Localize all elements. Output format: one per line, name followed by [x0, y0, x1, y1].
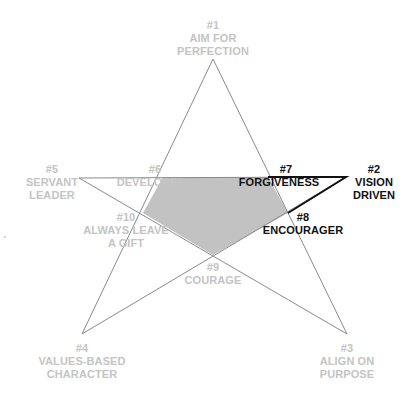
point-label-3: #3 ALIGN ON PURPOSE — [320, 342, 375, 381]
stray-mark — [4, 236, 6, 238]
point-text-3b: PURPOSE — [320, 368, 375, 381]
point-rank-4: #4 — [38, 342, 125, 355]
inner-label-10: #10 ALWAYS LEAVE A GIFT — [83, 211, 169, 250]
point-text-1b: PERFECTION — [177, 45, 249, 58]
point-text-2a: VISION — [353, 176, 395, 189]
inner-text-9: COURAGE — [185, 274, 242, 287]
inner-rank-10: #10 — [83, 211, 169, 224]
inner-label-8: #8 ENCOURAGER — [263, 211, 343, 237]
inner-rank-8: #8 — [263, 211, 343, 224]
point-rank-3: #3 — [320, 342, 375, 355]
point-text-5a: SERVANT — [26, 176, 78, 189]
point-label-5: #5 SERVANT LEADER — [26, 163, 78, 202]
inner-rank-6: #6 — [117, 163, 186, 176]
inner-text-6: DEVELOPER — [117, 176, 186, 189]
point-rank-1: #1 — [177, 19, 249, 32]
point-rank-5: #5 — [26, 163, 78, 176]
inner-label-6: #6 DEVELOPER — [117, 163, 186, 189]
point-label-4: #4 VALUES-BASED CHARACTER — [38, 342, 125, 381]
inner-text-10a: ALWAYS LEAVE — [83, 224, 169, 237]
inner-label-7: #7 FORGIVENESS — [239, 163, 320, 189]
inner-text-10b: A GIFT — [83, 237, 169, 250]
inner-text-8: ENCOURAGER — [263, 224, 343, 237]
point-text-2b: DRIVEN — [353, 189, 395, 202]
point-text-5b: LEADER — [26, 189, 78, 202]
point-label-2: #2 VISION DRIVEN — [353, 163, 395, 202]
point-rank-2: #2 — [353, 163, 395, 176]
point-text-1a: AIM FOR — [177, 32, 249, 45]
inner-text-7: FORGIVENESS — [239, 176, 320, 189]
point-text-3a: ALIGN ON — [320, 355, 375, 368]
inner-rank-7: #7 — [239, 163, 320, 176]
point-label-1: #1 AIM FOR PERFECTION — [177, 19, 249, 58]
point-text-4b: CHARACTER — [38, 368, 125, 381]
point-text-4a: VALUES-BASED — [38, 355, 125, 368]
inner-label-9: #9 COURAGE — [185, 261, 242, 287]
inner-rank-9: #9 — [185, 261, 242, 274]
